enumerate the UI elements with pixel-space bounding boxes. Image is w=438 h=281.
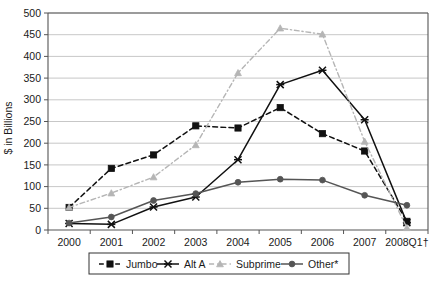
y-axis-title-label: $ in Billions <box>2 101 14 154</box>
x-tick-label: 2002 <box>142 236 166 248</box>
y-tick-label: 100 <box>23 180 41 192</box>
x-tick-label: 2005 <box>269 236 293 248</box>
data-point-marker-cross <box>361 116 369 123</box>
data-point-marker-circle <box>108 214 114 220</box>
series-jumbo <box>66 105 410 225</box>
y-tick-label: 50 <box>29 202 41 214</box>
data-series-group <box>65 25 411 231</box>
x-tick-label: 2008Q1† <box>385 236 428 248</box>
data-point-marker-square <box>319 131 325 137</box>
series-line <box>69 179 407 223</box>
y-axis-title: $ in Billions <box>2 101 14 154</box>
data-point-marker-cross <box>276 81 284 88</box>
legend-item-label: Subprime <box>236 258 281 270</box>
data-point-marker-circle <box>289 261 295 267</box>
data-point-marker-square <box>235 125 241 131</box>
x-tick-label: 2004 <box>226 236 250 248</box>
y-tick-label: 350 <box>23 72 41 84</box>
data-point-marker-square <box>277 105 283 111</box>
data-point-marker-square <box>150 152 156 158</box>
data-point-marker-circle <box>193 191 199 197</box>
x-axis-tick-marks <box>48 230 428 234</box>
data-point-marker-square <box>193 123 199 129</box>
y-tick-label: 150 <box>23 159 41 171</box>
y-tick-label: 500 <box>23 7 41 19</box>
data-point-marker-cross <box>318 67 326 74</box>
data-point-marker-triangle <box>192 142 199 148</box>
x-tick-label: 2001 <box>100 236 124 248</box>
y-tick-label: 200 <box>23 137 41 149</box>
data-point-marker-circle <box>320 177 326 183</box>
x-axis-tick-labels: 200020012002200320042005200620072008Q1† <box>57 236 428 248</box>
data-point-marker-circle <box>404 202 410 208</box>
data-point-marker-square <box>362 148 368 154</box>
data-point-marker-triangle <box>277 25 284 31</box>
x-tick-label: 2006 <box>311 236 335 248</box>
y-axis-tick-marks <box>44 13 48 230</box>
data-point-marker-cross <box>234 156 242 163</box>
data-point-marker-cross <box>150 203 158 210</box>
data-point-marker-square <box>107 261 113 267</box>
y-axis-tick-labels: 050100150200250300350400450500 <box>23 7 41 236</box>
y-tick-label: 300 <box>23 93 41 105</box>
y-tick-label: 0 <box>35 224 41 236</box>
chart-legend: JumboAlt ASubprimeOther* <box>89 253 349 274</box>
x-tick-label: 2007 <box>353 236 377 248</box>
y-tick-label: 400 <box>23 50 41 62</box>
data-point-marker-circle <box>235 179 241 185</box>
legend-item-label: Alt A <box>184 258 206 270</box>
series-alt-a <box>65 67 411 228</box>
data-point-marker-circle <box>277 176 283 182</box>
x-tick-label: 2000 <box>57 236 81 248</box>
y-tick-label: 450 <box>23 28 41 40</box>
data-point-marker-circle <box>151 198 157 204</box>
legend-item-label: Other* <box>308 258 338 270</box>
data-point-marker-circle <box>66 220 72 226</box>
line-chart: 050100150200250300350400450500 200020012… <box>0 0 438 281</box>
data-point-marker-cross <box>107 221 115 228</box>
x-tick-label: 2003 <box>184 236 208 248</box>
data-point-marker-square <box>108 165 114 171</box>
data-point-marker-circle <box>362 192 368 198</box>
chart-container: 050100150200250300350400450500 200020012… <box>0 0 438 281</box>
data-point-marker-triangle <box>361 138 368 144</box>
series-other <box>66 176 410 226</box>
y-tick-label: 250 <box>23 115 41 127</box>
legend-item-label: Jumbo <box>126 258 158 270</box>
